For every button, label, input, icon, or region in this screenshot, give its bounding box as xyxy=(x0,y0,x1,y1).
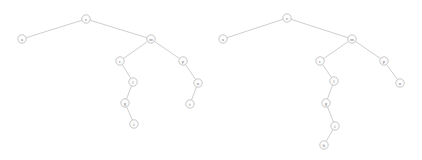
tree-node[interactable]: e xyxy=(116,57,124,65)
tree-edge xyxy=(291,19,348,37)
tree-edge xyxy=(326,130,333,142)
tree-node[interactable]: h xyxy=(320,141,328,149)
tree-edge xyxy=(227,19,283,37)
tree-node[interactable]: c xyxy=(82,15,90,23)
tree-node[interactable]: g xyxy=(322,99,330,107)
node-label: c xyxy=(286,16,288,21)
tree-edge xyxy=(127,86,132,99)
tree-node[interactable]: l xyxy=(129,78,137,86)
tree-edge xyxy=(122,65,131,79)
tree-node[interactable]: p xyxy=(179,57,187,65)
tree-node[interactable]: m xyxy=(147,35,155,43)
tree-node[interactable]: p xyxy=(380,57,388,65)
tree-edge xyxy=(327,85,332,99)
binary-tree-diagram: cameplugticameplugih xyxy=(0,0,422,160)
tree-node[interactable]: i xyxy=(130,120,138,128)
tree-node[interactable]: e xyxy=(316,57,324,65)
tree-edge xyxy=(26,20,82,38)
tree-edge xyxy=(322,64,331,77)
tree-node[interactable]: c xyxy=(283,14,291,22)
node-label: e xyxy=(119,59,121,64)
tree-node[interactable]: g xyxy=(121,99,129,107)
tree-node[interactable]: a xyxy=(219,35,227,43)
tree-edge xyxy=(154,41,179,58)
node-label: c xyxy=(85,17,87,22)
tree-node[interactable]: l xyxy=(330,77,338,85)
tree-edge xyxy=(127,107,133,120)
nodes-layer: cameplugticameplugih xyxy=(18,14,404,149)
node-label: e xyxy=(319,59,321,64)
tree-node[interactable]: i xyxy=(331,122,339,130)
tree-node[interactable]: m xyxy=(348,35,356,43)
tree-edge xyxy=(192,87,197,100)
tree-node[interactable]: u xyxy=(194,79,202,87)
tree-edge xyxy=(355,41,380,58)
node-label: a xyxy=(222,37,224,42)
tree-edge xyxy=(185,64,195,79)
tree-node[interactable]: u xyxy=(396,79,404,87)
node-label: m xyxy=(350,37,354,42)
tree-edge xyxy=(386,64,397,79)
node-label: a xyxy=(21,37,23,42)
tree-edge xyxy=(328,107,334,122)
tree-node[interactable]: a xyxy=(18,35,26,43)
tree-edge xyxy=(323,41,348,58)
edges-layer xyxy=(26,19,398,141)
tree-edge xyxy=(90,20,147,38)
tree-edge xyxy=(123,41,147,58)
diagram-canvas: cameplugticameplugih xyxy=(0,0,422,160)
tree-node[interactable]: t xyxy=(186,100,194,108)
node-label: m xyxy=(149,37,153,42)
